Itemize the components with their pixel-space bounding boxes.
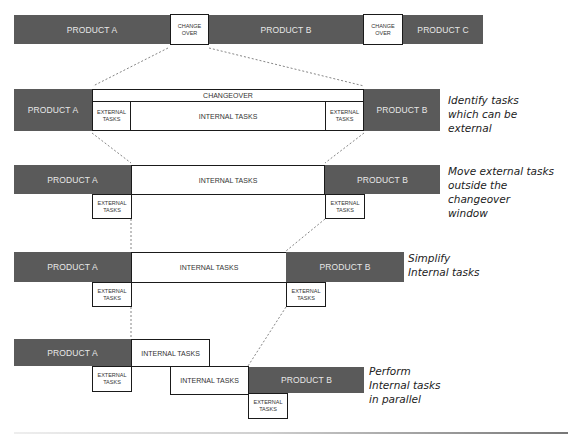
row3-external-left: EXTERNAL TASKS bbox=[92, 194, 132, 219]
bottom-divider bbox=[14, 432, 568, 434]
row4-annotation: Simplify Internal tasks bbox=[408, 251, 480, 279]
row5-product-b: PRODUCT B bbox=[249, 367, 364, 393]
row4-product-a: PRODUCT A bbox=[14, 252, 131, 282]
row4-external-left: EXTERNAL TASKS bbox=[92, 282, 132, 307]
row1-changeover-2: CHANGE OVER bbox=[363, 14, 403, 45]
zoom-line-right-2 bbox=[325, 133, 364, 163]
row2-external-right: EXTERNAL TASKS bbox=[325, 101, 364, 131]
row4-internal: INTERNAL TASKS bbox=[131, 252, 287, 283]
row2-product-b: PRODUCT B bbox=[364, 89, 440, 131]
row2-product-a: PRODUCT A bbox=[14, 89, 92, 131]
row5-external-right: EXTERNAL TASKS bbox=[248, 393, 288, 419]
row5-external-left: EXTERNAL TASKS bbox=[92, 366, 132, 392]
row3-product-a: PRODUCT A bbox=[14, 165, 131, 194]
row5-internal-1: INTERNAL TASKS bbox=[131, 339, 210, 367]
row5-annotation: Perform Internal tasks in parallel bbox=[369, 364, 441, 406]
row2-annotation: Identify tasks which can be external bbox=[448, 93, 519, 135]
zoom-line-right-3 bbox=[286, 219, 325, 251]
row3-external-right: EXTERNAL TASKS bbox=[325, 194, 365, 219]
row1-product-b: PRODUCT B bbox=[209, 15, 363, 44]
zoom-line-right-1 bbox=[209, 48, 364, 86]
row2-internal: INTERNAL TASKS bbox=[130, 101, 326, 131]
row3-annotation: Move external tasks outside the changeov… bbox=[448, 164, 568, 220]
row2-external-left: EXTERNAL TASKS bbox=[92, 101, 131, 131]
row5-internal-2: INTERNAL TASKS bbox=[170, 366, 249, 395]
zoom-line-left-1 bbox=[93, 48, 168, 86]
zoom-line-left-2 bbox=[92, 133, 131, 163]
row3-internal: INTERNAL TASKS bbox=[131, 165, 325, 195]
row1-changeover-1: CHANGE OVER bbox=[170, 14, 209, 45]
row1-product-a: PRODUCT A bbox=[14, 15, 170, 44]
row3-product-b: PRODUCT B bbox=[325, 165, 440, 194]
row4-external-right: EXTERNAL TASKS bbox=[286, 282, 326, 307]
row1-product-c: PRODUCT C bbox=[403, 15, 483, 44]
row4-product-b: PRODUCT B bbox=[286, 252, 404, 282]
zoom-line-right-4 bbox=[248, 307, 286, 366]
row5-product-a: PRODUCT A bbox=[14, 339, 131, 366]
